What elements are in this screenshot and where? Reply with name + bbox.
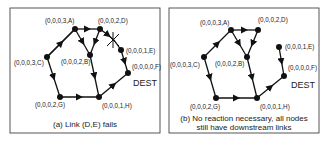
edge-h-f (99, 73, 128, 97)
node-f (281, 73, 287, 79)
edge-c-a-arrow (47, 29, 75, 57)
edge-h-f (257, 76, 284, 98)
node-h (254, 95, 260, 101)
label-h: (0,0,0,1,H) (102, 102, 132, 110)
dest-label: DEST (291, 80, 316, 90)
node-d (97, 26, 103, 32)
label-e: (0,0,0,1,E) (285, 43, 314, 51)
caption-b-line1: (b) No reaction necessary, all nodes (180, 114, 307, 123)
label-h: (0,0,0,1,H) (260, 103, 290, 111)
panel-a-frame (10, 8, 160, 133)
label-f: (0,0,0,0,F) (132, 63, 161, 71)
label-g: (0,0,0,2,G) (190, 103, 220, 111)
node-c (44, 54, 50, 60)
node-a (72, 26, 78, 32)
node-e (276, 44, 282, 50)
diagram-canvas: (0,0,0,3,A) (0,0,0,2,D) (0,0,0,2,B) (0,0… (0, 0, 328, 147)
label-d: (0,0,0,2,D) (98, 17, 128, 25)
edge-a-b (75, 29, 90, 55)
node-c (201, 54, 207, 60)
caption-a: (a) Link (D,E) fails (53, 120, 117, 129)
node-e (118, 47, 124, 53)
label-a: (0,0,0,3,A) (200, 19, 229, 27)
label-b: (0,0,0,2,B) (215, 60, 244, 68)
edge-e-f (279, 47, 284, 76)
node-f (125, 70, 131, 76)
edge-a-b (231, 30, 247, 57)
caption-b-line2: still have downstream links (196, 123, 291, 132)
panel-b: (0,0,0,3,A) (0,0,0,2,D) (0,0,0,2,B) (0,0… (169, 8, 319, 133)
label-g: (0,0,0,2,G) (35, 101, 65, 109)
panel-a: (0,0,0,3,A) (0,0,0,2,D) (0,0,0,2,B) (0,0… (10, 8, 161, 133)
label-b: (0,0,0,2,B) (61, 58, 90, 66)
label-c: (0,0,0,3,C) (14, 59, 44, 67)
edge-c-g (47, 57, 60, 97)
node-g (57, 94, 63, 100)
edge-b-h (90, 55, 99, 97)
label-f: (0,0,0,0,F) (288, 64, 317, 72)
node-h (96, 94, 102, 100)
edge-b-h (247, 57, 257, 98)
label-d: (0,0,0,2,D) (258, 16, 288, 24)
label-c: (0,0,0,3,C) (170, 61, 200, 69)
edge-d-b (247, 30, 258, 57)
label-a: (0,0,0,3,A) (45, 17, 74, 25)
node-a (228, 27, 234, 33)
node-b (244, 54, 250, 60)
label-e: (0,0,0,1,E) (126, 47, 155, 55)
edge-c-a (204, 30, 231, 57)
edge-d-b (90, 29, 100, 55)
panel-a-labels: (0,0,0,3,A) (0,0,0,2,D) (0,0,0,2,B) (0,0… (14, 17, 161, 110)
dest-label: DEST (133, 78, 158, 88)
node-d (255, 27, 261, 33)
node-g (213, 95, 219, 101)
